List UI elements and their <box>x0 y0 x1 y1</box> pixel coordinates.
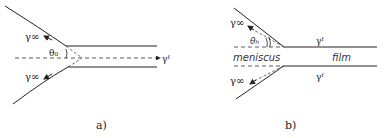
diagram-canvas: γ∞ γ∞ θ₀ γᶠ a) γ∞ γ∞ θₕ γᶠ γᶠ meniscus f… <box>0 0 384 138</box>
gamma-f-bottom-label: γᶠ <box>316 72 324 82</box>
panel-a: γ∞ γ∞ θ₀ γᶠ a) <box>5 6 170 132</box>
meniscus-label: meniscus <box>233 52 280 63</box>
gamma-inf-bottom-arrow-icon <box>250 80 256 84</box>
tension-dashed-upper <box>66 46 82 58</box>
theta-label: θ₀ <box>49 48 58 58</box>
tension-dashed-lower <box>68 58 82 67</box>
gamma-f-label: γᶠ <box>162 54 170 64</box>
gamma-inf-top-arrow-icon <box>44 36 52 40</box>
gamma-inf-top-arrow-icon <box>248 26 254 30</box>
gamma-f-top-label: γᶠ <box>316 36 324 46</box>
gamma-inf-bottom-label: γ∞ <box>230 75 244 86</box>
angle-arc-icon-2 <box>269 37 270 47</box>
caption-b: b) <box>285 119 296 132</box>
gamma-inf-bottom-arrow-icon <box>44 74 52 79</box>
theta-label: θₕ <box>250 36 260 46</box>
gamma-inf-bottom-label: γ∞ <box>25 71 39 82</box>
caption-a: a) <box>96 119 107 132</box>
gamma-inf-top-label: γ∞ <box>25 31 39 42</box>
film-label: film <box>332 52 351 63</box>
angle-arc-icon <box>266 38 267 47</box>
panel-b: γ∞ γ∞ θₕ γᶠ γᶠ meniscus film b) <box>230 8 377 132</box>
tension-dashed-lower <box>252 66 284 82</box>
gamma-inf-top-label: γ∞ <box>230 17 244 28</box>
angle-arc-icon <box>66 49 67 58</box>
meniscus-lower-line <box>13 67 68 104</box>
